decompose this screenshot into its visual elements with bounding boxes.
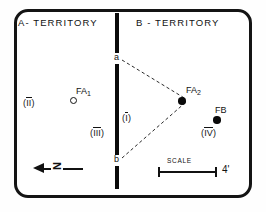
- territory-b-label: B - TERRITORY: [136, 17, 219, 28]
- marker-fb-filled-circle: [213, 116, 221, 124]
- scale-bar-tick-right: [215, 167, 217, 177]
- territory-a-label: A- TERRITORY: [18, 17, 98, 28]
- compass-north-letter: N: [51, 161, 63, 171]
- scale-bar-rule: [158, 171, 217, 173]
- boundary-line-segment-middle: [115, 64, 119, 155]
- marker-fa1-name: FA: [76, 86, 87, 96]
- scale-bar-caption: SCALE: [167, 157, 192, 164]
- marker-fa2-subscript: 2: [197, 89, 201, 96]
- scale-bar: SCALE 4': [158, 158, 236, 184]
- marker-fa2-label: FA2: [186, 85, 201, 96]
- marker-fb-label: FB: [215, 105, 227, 115]
- zone-label-iv: (IV): [201, 128, 216, 138]
- marker-fa1-label: FA1: [76, 86, 91, 97]
- marker-fa1-subscript: 1: [87, 90, 91, 97]
- zone-iv-numeral: IV: [204, 127, 213, 138]
- marker-fa2-name: FA: [186, 85, 197, 95]
- compass-indicator: N: [33, 161, 83, 177]
- scale-bar-tick-left: [158, 167, 160, 177]
- zone-label-ii: (II): [23, 98, 35, 108]
- scale-bar-value: 4': [222, 164, 229, 175]
- marker-fb-name: FB: [215, 105, 227, 115]
- territory-map-figure: A- TERRITORY B - TERRITORY a b (II) (I) …: [0, 0, 266, 212]
- zone-iii-numeral: III: [93, 127, 101, 138]
- zone-ii-paren-close: ): [32, 98, 35, 108]
- zone-label-i: (I): [122, 113, 131, 123]
- marker-fa1-open-circle: [70, 97, 77, 104]
- boundary-endpoint-a: a: [114, 52, 119, 62]
- boundary-line-segment-bottom: [115, 166, 119, 189]
- boundary-endpoint-b: b: [114, 154, 119, 164]
- boundary-line-segment-top: [115, 13, 119, 53]
- arrow-left-icon: [33, 163, 44, 173]
- marker-fa2-filled-circle: [178, 97, 186, 105]
- zone-iii-paren-close: ): [101, 128, 104, 138]
- zone-i-paren-close: ): [128, 113, 131, 123]
- zone-label-iii: (III): [90, 128, 104, 138]
- zone-iv-paren-close: ): [213, 128, 216, 138]
